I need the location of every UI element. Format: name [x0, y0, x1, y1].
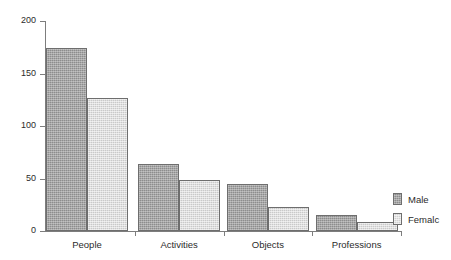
legend-label-female: Femalc [408, 214, 439, 225]
legend-label-male: Male [408, 194, 429, 205]
x-axis-label-activities: Activities [134, 239, 224, 250]
y-axis-tick-mark [40, 231, 45, 232]
y-axis-tick-label: 50 [26, 174, 36, 183]
x-axis-tick-mark [224, 231, 225, 236]
x-axis-label-people: People [42, 239, 132, 250]
y-axis-tick-mark [40, 74, 45, 75]
x-axis-tick-mark [312, 231, 313, 236]
y-axis-tick: 50 [0, 179, 45, 180]
plot-area [46, 21, 401, 231]
bar-people-femalc [87, 98, 128, 231]
y-axis-tick: 150 [0, 74, 45, 75]
legend-item-female[interactable]: Femalc [393, 209, 439, 229]
bar-activities-femalc [179, 180, 220, 231]
y-axis-tick-label: 100 [21, 121, 36, 130]
y-axis-tick-label: 200 [21, 16, 36, 25]
y-axis-tick-mark [40, 21, 45, 22]
bar-professions-male [316, 215, 357, 231]
bar-people-male [46, 48, 87, 231]
bar-chart: 050100150200 PeopleActivitiesObjectsProf… [0, 0, 451, 260]
legend-swatch-female-icon [393, 213, 402, 225]
x-axis-label-objects: Objects [223, 239, 313, 250]
y-axis-tick-mark [40, 126, 45, 127]
bar-activities-male [138, 164, 179, 231]
y-axis-tick: 200 [0, 21, 45, 22]
y-axis-tick: 100 [0, 126, 45, 127]
x-axis-label-professions: Professions [312, 239, 402, 250]
bar-professions-femalc [357, 222, 398, 231]
chart-legend: Male Femalc [393, 189, 439, 229]
bar-objects-male [227, 184, 268, 231]
x-axis-tick-mark [401, 231, 402, 236]
y-axis-tick-label: 150 [21, 69, 36, 78]
legend-swatch-male-icon [393, 193, 402, 205]
bar-objects-femalc [268, 207, 309, 231]
x-axis-tick-mark [135, 231, 136, 236]
y-axis-tick-mark [40, 179, 45, 180]
y-axis-tick: 0 [0, 231, 45, 232]
y-axis-tick-label: 0 [31, 226, 36, 235]
legend-item-male[interactable]: Male [393, 189, 439, 209]
